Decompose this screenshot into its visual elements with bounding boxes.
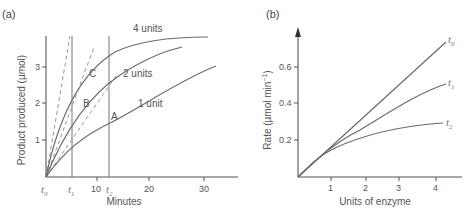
a-label-A: A — [111, 111, 118, 122]
a-tangent-4units — [46, 36, 70, 177]
b-label-t0: t0 — [448, 33, 455, 48]
panel-b-label: (b) — [266, 8, 279, 20]
a-label-1unit: 1 unit — [138, 98, 163, 109]
b-xtick-label-3: 3 — [396, 183, 401, 193]
a-label-4units: 4 units — [133, 23, 162, 34]
a-label-C: C — [89, 68, 96, 79]
b-xtick-label-1: 1 — [328, 183, 333, 193]
a-ytick-label-3: 3 — [35, 62, 40, 72]
a-xtick-label-30: 30 — [199, 184, 209, 194]
a-y-title: Product produced (µmol) — [16, 55, 27, 165]
b-ytick-label-04: 0.4 — [279, 98, 292, 108]
b-xtick-label-4: 4 — [433, 183, 438, 193]
figure: (a) 1 2 3 10 20 30 t0 t1 t2 4 un — [0, 0, 474, 216]
b-y-axis-arrow-icon — [295, 27, 301, 37]
a-t1-label: t1 — [68, 183, 75, 198]
panel-a-label: (a) — [2, 8, 15, 20]
b-ytick-label-02: 0.2 — [279, 135, 292, 145]
a-ytick-label-1: 1 — [35, 135, 40, 145]
b-label-t1: t1 — [448, 76, 455, 91]
b-xtick-label-2: 2 — [363, 183, 368, 193]
b-y-title: Rate (µmol min−1) — [261, 70, 273, 149]
b-curve-t1 — [298, 84, 446, 177]
b-ytick-label-06: 0.6 — [279, 62, 292, 72]
a-xtick-label-20: 20 — [144, 184, 154, 194]
a-label-B: B — [83, 98, 90, 109]
b-label-t2: t2 — [446, 116, 453, 131]
a-curve-4units — [46, 37, 208, 177]
panel-a: (a) 1 2 3 10 20 30 t0 t1 t2 4 un — [2, 8, 238, 207]
b-curve-t2 — [298, 123, 443, 177]
a-t0-label: t0 — [41, 183, 48, 198]
a-label-2units: 2 units — [123, 68, 152, 79]
b-x-title: Units of enzyme — [339, 196, 411, 207]
a-xtick-label-10: 10 — [91, 184, 101, 194]
panel-b: (b) 0.2 0.4 0.6 1 2 3 4 t0 t1 t2 Units o… — [261, 8, 462, 207]
a-ytick-label-2: 2 — [35, 98, 40, 108]
a-x-title: Minutes — [106, 196, 141, 207]
a-tangent-2units — [46, 47, 94, 177]
